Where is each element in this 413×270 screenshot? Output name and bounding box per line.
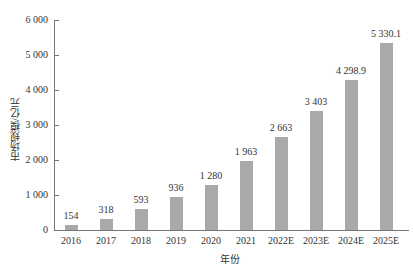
x-tick-label: 2018: [121, 236, 161, 246]
x-axis: [54, 230, 409, 231]
x-tick-label: 2022E: [261, 236, 301, 246]
bar: [100, 219, 113, 230]
y-tick: [54, 195, 59, 196]
x-tick-label: 2020: [191, 236, 231, 246]
value-label: 1 963: [221, 147, 271, 157]
x-tick-label: 2021: [226, 236, 266, 246]
value-label: 593: [116, 195, 166, 205]
x-tick-label: 2019: [156, 236, 196, 246]
bar: [345, 80, 358, 230]
bar: [380, 43, 393, 230]
y-tick-label: 6 000: [8, 15, 48, 25]
x-tick-label: 2023E: [296, 236, 336, 246]
y-tick: [54, 55, 59, 56]
y-tick-label: 0: [8, 225, 48, 235]
bar: [205, 185, 218, 230]
y-tick-label: 1 000: [8, 190, 48, 200]
bar: [310, 111, 323, 230]
x-tick-label: 2016: [51, 236, 91, 246]
y-tick: [54, 160, 59, 161]
value-label: 3 403: [291, 97, 341, 107]
value-label: 5 330.1: [361, 29, 411, 39]
bar-chart: 01 0002 0003 0004 0005 0006 000 15420163…: [0, 0, 413, 270]
bar: [65, 225, 78, 230]
bar: [275, 137, 288, 230]
x-axis-title: 年份: [210, 251, 250, 266]
y-tick: [54, 90, 59, 91]
x-tick-label: 2017: [86, 236, 126, 246]
bar: [170, 197, 183, 230]
y-tick: [54, 125, 59, 126]
x-tick-label: 2024E: [331, 236, 371, 246]
value-label: 4 298.9: [326, 66, 376, 76]
bar: [240, 161, 253, 230]
value-label: 936: [151, 183, 201, 193]
value-label: 2 663: [256, 123, 306, 133]
x-tick-label: 2025E: [366, 236, 406, 246]
y-axis-title: 市场规模/亿元: [8, 90, 23, 170]
y-tick: [54, 20, 59, 21]
value-label: 318: [81, 205, 131, 215]
y-tick: [54, 230, 59, 231]
y-tick-label: 5 000: [8, 50, 48, 60]
bar: [135, 209, 148, 230]
value-label: 1 280: [186, 171, 236, 181]
